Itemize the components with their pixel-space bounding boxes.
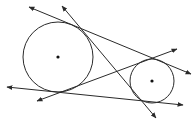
large-circle-center-point: [56, 55, 59, 58]
tangent-circles-diagram: [0, 0, 192, 121]
external-tangent-bottom: [7, 87, 183, 105]
small-circle-center-point: [150, 79, 153, 82]
